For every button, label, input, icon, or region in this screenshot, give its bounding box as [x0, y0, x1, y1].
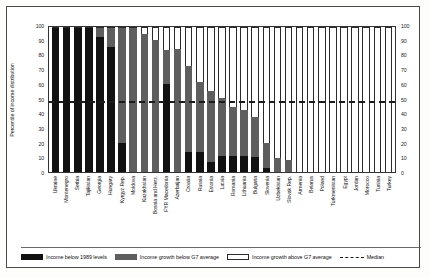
x-axis-tick-label: Hungary	[105, 175, 116, 237]
x-axis-tick-label: Armenia	[294, 175, 305, 237]
y-axis-tick-label: 100	[401, 23, 409, 29]
stacked-bar	[185, 27, 193, 172]
stacked-bar	[362, 27, 370, 172]
bar-segment-below-g7	[185, 66, 193, 152]
bar-column	[128, 27, 139, 172]
y-axis-tick-label: 50	[401, 97, 407, 103]
bar-column	[327, 27, 338, 172]
legend-swatch-dashed-line-icon	[340, 257, 364, 258]
stacked-bar	[74, 27, 82, 172]
bar-segment-below-1989	[52, 27, 60, 172]
x-axis-tick-label-text: Belarus	[308, 176, 314, 193]
x-axis-tick-label-text: FYR Macedonia	[163, 176, 169, 212]
legend-label-below-1989: Income below 1989 levels	[46, 254, 107, 260]
stacked-bar	[174, 27, 182, 172]
stacked-bar	[107, 27, 115, 172]
bar-segment-below-1989	[240, 156, 248, 172]
stacked-bar	[141, 27, 149, 172]
bar-segment-below-1989	[163, 84, 171, 172]
bar-segment-above-g7	[240, 27, 248, 110]
legend-item-below-g7: Income growth below G7 average	[115, 254, 219, 260]
stacked-bar	[163, 27, 171, 172]
stacked-bar	[263, 27, 271, 172]
x-axis-tick-label-text: Russia	[197, 176, 203, 191]
bar-column	[316, 27, 327, 172]
legend-swatch-black-icon	[21, 254, 43, 260]
x-axis-tick-label-text: Montenegro	[63, 176, 69, 203]
y-axis-left: 0102030405060708090100	[20, 26, 46, 173]
bar-segment-below-g7	[207, 91, 215, 162]
bar-segment-above-g7	[263, 27, 271, 143]
x-axis-tick-label: Jordan	[350, 175, 361, 237]
bar-segment-above-g7	[374, 27, 382, 172]
x-axis-category-labels: UkraineMontenegroSerbiaTajikistanGeorgia…	[48, 175, 396, 237]
x-axis-tick-label-text: Morocco	[364, 176, 370, 195]
bar-segment-above-g7	[285, 27, 293, 160]
plot-area	[48, 26, 396, 173]
stacked-bar	[296, 27, 304, 172]
stacked-bar	[52, 27, 60, 172]
y-axis-tick-label: 90	[401, 38, 407, 44]
bar-column	[250, 27, 261, 172]
bar-column	[139, 27, 150, 172]
bar-column	[150, 27, 161, 172]
y-axis-tick-label: 40	[401, 111, 407, 117]
x-axis-tick-label: Romania	[228, 175, 239, 237]
x-axis-tick-label: Turkmenistan	[328, 175, 339, 237]
x-axis-tick-label-text: Tajikistan	[85, 176, 91, 196]
stacked-bar	[218, 27, 226, 172]
bar-segment-above-g7	[274, 27, 282, 158]
bar-column	[117, 27, 128, 172]
x-axis-tick-label-text: Kyrgyz Rep.	[119, 176, 125, 203]
bar-group	[49, 27, 395, 172]
y-axis-tick-label: 20	[38, 141, 44, 147]
bar-segment-above-g7	[251, 27, 259, 117]
x-axis-tick-label: Montenegro	[60, 175, 71, 237]
x-axis-tick-label-text: Bosnia and Herz.	[152, 176, 158, 214]
stacked-bar	[374, 27, 382, 172]
x-axis-tick-label-text: Slovak Rep.	[286, 176, 292, 203]
stacked-bar	[85, 27, 93, 172]
x-axis-tick-label: Slovak Rep.	[283, 175, 294, 237]
bar-segment-below-1989	[107, 47, 115, 172]
stacked-bar	[63, 27, 71, 172]
bar-segment-below-1989	[96, 37, 104, 172]
bar-segment-above-g7	[351, 27, 359, 172]
bar-column	[283, 27, 294, 172]
x-axis-tick-label: Bulgaria	[250, 175, 261, 237]
y-axis-tick-label: 60	[38, 82, 44, 88]
bar-column	[372, 27, 383, 172]
bar-column	[105, 27, 116, 172]
bar-segment-below-g7	[174, 49, 182, 172]
legend-swatch-white-icon	[227, 254, 249, 260]
x-axis-tick-label: Bosnia and Herz.	[149, 175, 160, 237]
x-axis-tick-label-text: Turkmenistan	[330, 176, 336, 206]
stacked-bar	[229, 27, 237, 172]
bar-column	[338, 27, 349, 172]
x-axis-tick-label-text: Tunisia	[375, 176, 381, 192]
bar-segment-above-g7	[152, 27, 160, 40]
x-axis-tick-label: Poland	[317, 175, 328, 237]
x-axis-tick-label: Croatia	[183, 175, 194, 237]
legend-item-median: Median	[340, 254, 384, 260]
bar-column	[272, 27, 283, 172]
stacked-bar	[118, 27, 126, 172]
bar-segment-below-g7	[218, 98, 226, 156]
bar-segment-below-1989	[207, 162, 215, 172]
y-axis-tick-label: 10	[401, 155, 407, 161]
bar-column	[50, 27, 61, 172]
x-axis-tick-label: Serbia	[71, 175, 82, 237]
y-axis-tick-label: 100	[36, 23, 44, 29]
x-axis-tick-label-text: Hungary	[107, 176, 113, 195]
x-axis-tick-label: Lithuania	[239, 175, 250, 237]
bar-segment-below-g7	[152, 40, 160, 172]
stacked-bar	[129, 27, 137, 172]
y-axis-tick-label: 0	[41, 170, 44, 176]
stacked-bar	[318, 27, 326, 172]
y-axis-tick-label: 10	[38, 155, 44, 161]
bar-column	[294, 27, 305, 172]
bar-segment-above-g7	[385, 27, 393, 172]
bar-column	[205, 27, 216, 172]
bar-segment-below-g7	[118, 27, 126, 143]
bar-segment-below-1989	[196, 152, 204, 172]
